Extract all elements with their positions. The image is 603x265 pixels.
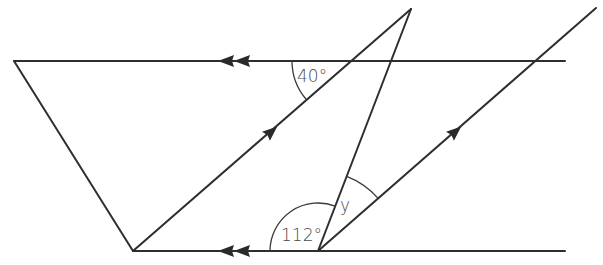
bottom-double-arrow-icon bbox=[218, 245, 250, 257]
steep-line bbox=[318, 9, 411, 251]
angle-arc-y bbox=[347, 176, 379, 198]
angle-label-112: 112° bbox=[281, 225, 322, 245]
angle-label-40: 40° bbox=[297, 66, 327, 86]
angle-label-y: y bbox=[340, 195, 350, 215]
geometry-diagram: 40° 112° y bbox=[0, 0, 603, 265]
left-side-line bbox=[14, 61, 133, 251]
top-double-arrow-icon bbox=[218, 55, 250, 67]
